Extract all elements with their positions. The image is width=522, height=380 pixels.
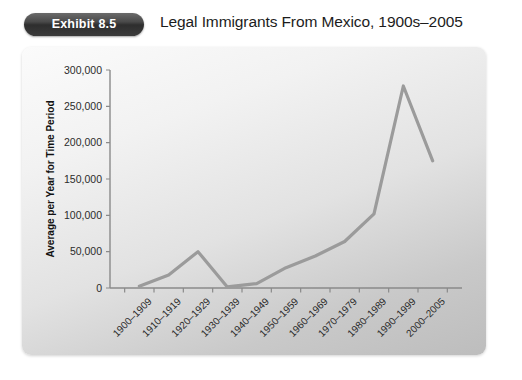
y-axis: 050,000100,000150,000200,000250,000300,0… xyxy=(45,64,110,294)
y-tick-label: 50,000 xyxy=(70,245,102,257)
y-tick-label: 250,000 xyxy=(64,100,102,112)
x-tick-label-group: 1900–19091910–19191920–19291930–19391940… xyxy=(111,295,448,338)
exhibit-badge: Exhibit 8.5 xyxy=(24,13,144,36)
y-tick-label: 200,000 xyxy=(64,136,102,148)
exhibit-header: Exhibit 8.5 Legal Immigrants From Mexico… xyxy=(0,0,522,44)
line-chart: 050,000100,000150,000200,000250,000300,0… xyxy=(22,47,486,355)
y-tick-label: 150,000 xyxy=(64,173,102,185)
page-title: Legal Immigrants From Mexico, 1900s–2005 xyxy=(160,13,463,31)
y-tick-label: 300,000 xyxy=(64,64,102,76)
x-axis: 1900–19091910–19191920–19291930–19391940… xyxy=(110,288,462,339)
data-series-line xyxy=(139,86,432,287)
y-axis-title: Average per Year for Time Period xyxy=(45,100,56,257)
y-tick-label: 0 xyxy=(96,282,102,294)
exhibit-badge-label: Exhibit 8.5 xyxy=(52,18,117,31)
y-tick-group: 050,000100,000150,000200,000250,000300,0… xyxy=(64,64,110,294)
y-tick-label: 100,000 xyxy=(64,209,102,221)
chart-panel: 050,000100,000150,000200,000250,000300,0… xyxy=(22,47,486,355)
